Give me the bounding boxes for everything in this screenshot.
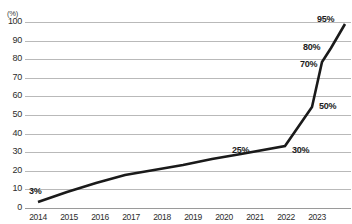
series-line-layer [0, 0, 352, 224]
series-line-adoption [38, 24, 345, 202]
percentage-trend-line-chart: (%) 0102030405060708090100 2014201520162… [0, 0, 352, 224]
